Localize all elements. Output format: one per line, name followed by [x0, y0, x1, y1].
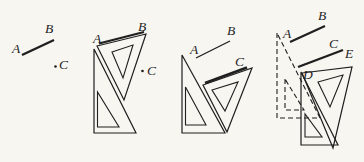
label-A: A: [189, 42, 199, 57]
point-C-dot: [141, 70, 144, 73]
label-C: C: [329, 36, 339, 51]
figure-canvas: ABCABCABCABCDE: [0, 0, 364, 162]
label-C: C: [235, 54, 245, 69]
label-A: A: [11, 41, 21, 56]
point-C-dot: [54, 65, 57, 68]
label-B: B: [138, 19, 146, 34]
label-C: C: [59, 57, 69, 72]
label-B: B: [227, 23, 235, 38]
label-D: D: [302, 67, 313, 82]
label-C: C: [147, 63, 157, 78]
label-B: B: [45, 21, 53, 36]
label-A: A: [282, 26, 292, 41]
geometry-construction-figure: ABCABCABCABCDE: [0, 0, 364, 162]
label-A: A: [92, 31, 102, 46]
label-E: E: [344, 46, 354, 61]
label-B: B: [318, 8, 326, 23]
